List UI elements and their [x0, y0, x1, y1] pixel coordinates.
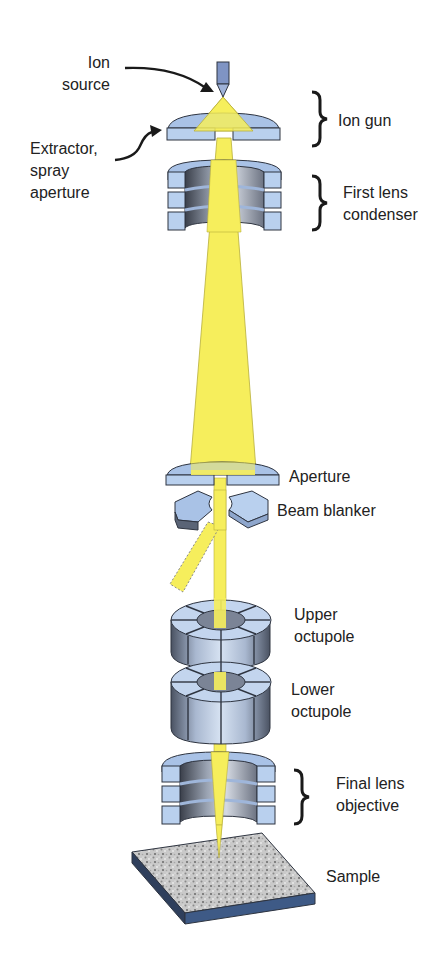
- label-final-lens-line2: objective: [336, 797, 399, 814]
- fib-column-diagram: Ion source Extractor, spray aperture Ion…: [0, 0, 443, 965]
- upper-octupole: [171, 598, 271, 668]
- lower-octupole: [171, 662, 271, 744]
- final-lens-objective: [162, 752, 275, 825]
- extractor-disc: [167, 97, 280, 140]
- brace-first-lens: [312, 176, 327, 230]
- label-final-lens-line1: Final lens: [336, 775, 404, 792]
- ion-source-tip: [217, 62, 229, 97]
- label-extractor-line2: spray: [30, 162, 69, 179]
- label-extractor-line3: aperture: [30, 184, 90, 201]
- label-ion-gun: Ion gun: [338, 112, 391, 129]
- first-lens-condenser: [168, 160, 281, 232]
- label-upper-octupole-line1: Upper: [294, 606, 338, 623]
- beam-blanker: [175, 490, 268, 530]
- label-lower-octupole-line2: octupole: [291, 703, 352, 720]
- arrow-ion-source: [125, 68, 214, 92]
- label-first-lens-line2: condenser: [343, 206, 418, 223]
- brace-ion-gun: [312, 92, 327, 146]
- label-ion-source-line2: source: [62, 76, 110, 93]
- label-beam-blanker: Beam blanker: [277, 502, 376, 519]
- deflected-beam: [170, 522, 220, 592]
- brace-final-lens: [294, 770, 309, 824]
- label-upper-octupole-line2: octupole: [294, 628, 355, 645]
- label-first-lens-line1: First lens: [343, 184, 408, 201]
- label-sample: Sample: [326, 868, 380, 885]
- label-aperture: Aperture: [289, 468, 350, 485]
- label-ion-source-line1: Ion: [88, 54, 110, 71]
- label-lower-octupole-line1: Lower: [291, 681, 335, 698]
- label-extractor-line1: Extractor,: [30, 140, 98, 157]
- arrow-extractor: [115, 125, 162, 160]
- sample: [132, 825, 315, 924]
